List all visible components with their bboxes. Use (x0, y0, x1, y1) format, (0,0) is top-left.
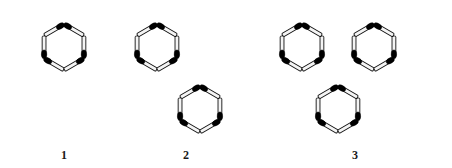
matchstick-head (217, 112, 222, 121)
matchstick (43, 22, 65, 38)
matchstick (62, 22, 84, 38)
matchstick-figure-page: 1 2 3 (0, 0, 452, 168)
matchstick (136, 56, 158, 72)
matchstick (63, 56, 85, 72)
matchstick (317, 118, 339, 134)
matchstick (301, 56, 323, 72)
matchstick (317, 84, 339, 100)
matchstick-head (319, 50, 324, 59)
matchstick (134, 36, 139, 59)
matchstick (217, 98, 222, 121)
matchstick (179, 118, 201, 134)
matchstick (136, 22, 158, 38)
matchstick (43, 56, 65, 72)
matchstick (372, 22, 394, 38)
matchstick (353, 22, 375, 38)
matchstick (198, 84, 220, 100)
matchstick (81, 36, 86, 59)
matchstick (353, 56, 375, 72)
matchstick (41, 36, 46, 59)
matchstick (177, 98, 182, 121)
matchstick (300, 22, 322, 38)
matchstick (315, 98, 320, 121)
matchstick (319, 36, 324, 59)
matchstick (155, 22, 177, 38)
matchstick (355, 98, 360, 121)
figure-label-3: 3 (343, 148, 367, 162)
matchstick-head (391, 50, 396, 59)
matchstick (199, 118, 221, 134)
matchstick-diagram-canvas (0, 0, 452, 168)
matchstick-head (355, 112, 360, 121)
matchstick-head (81, 50, 86, 59)
matchstick (279, 36, 284, 59)
matchstick (281, 56, 303, 72)
matchstick (391, 36, 396, 59)
matchstick (337, 118, 359, 134)
figure-label-2: 2 (174, 148, 198, 162)
figure-label-1: 1 (52, 148, 76, 162)
matchstick (351, 36, 356, 59)
matchstick-head (174, 50, 179, 59)
matchstick (373, 56, 395, 72)
matchstick (174, 36, 179, 59)
matchstick (336, 84, 358, 100)
matchstick (156, 56, 178, 72)
matchstick (281, 22, 303, 38)
matchstick (179, 84, 201, 100)
